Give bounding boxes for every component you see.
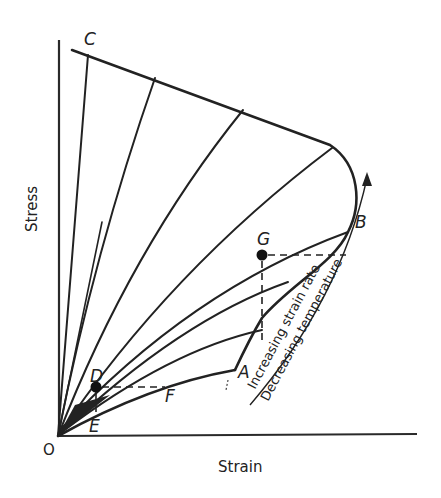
origin-label: O [43, 441, 55, 459]
point-G [257, 250, 268, 261]
A-dotted [226, 380, 228, 390]
arrowhead-icon [362, 172, 372, 186]
y-axis-label: Stress [23, 186, 41, 232]
label-C: C [84, 29, 96, 49]
x-axis-label: Strain [218, 458, 262, 476]
label-G: G [257, 229, 270, 249]
curve-1 [58, 55, 88, 436]
curve-4 [58, 148, 332, 436]
label-E: E [89, 416, 100, 436]
label-B: B [355, 212, 367, 232]
x-axis [58, 434, 417, 436]
label-F: F [165, 386, 175, 406]
label-D: D [90, 366, 103, 386]
stress-strain-diagram: C B G A D F E O Strain Stress Increasing… [0, 0, 441, 498]
